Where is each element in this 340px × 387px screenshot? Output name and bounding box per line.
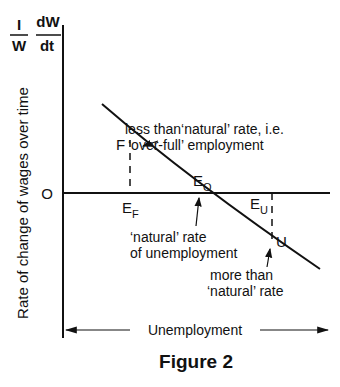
- ef-label-main: E: [122, 199, 132, 216]
- ef-label-sub: F: [132, 208, 139, 220]
- eu-label-sub: U: [260, 204, 268, 216]
- eo-label-main: E: [193, 172, 203, 189]
- eo-label-sub: O: [203, 181, 212, 193]
- y-axis-label: Rate of change of wages over time: [14, 87, 31, 319]
- symbol-numerator-2: dW: [36, 13, 60, 30]
- phillips-curve-diagram: I W dW dt Rate of change of wages over t…: [0, 0, 340, 387]
- point-u-label: U: [276, 233, 287, 250]
- arrow-more-than: [267, 249, 270, 267]
- annotation-over-full-line1: less than‘natural’ rate, i.e.: [125, 121, 284, 137]
- arrow-natural-rate: [196, 198, 199, 226]
- ef-label: E F: [122, 199, 139, 220]
- eu-label: E U: [250, 195, 268, 216]
- eo-label: E O: [193, 172, 212, 193]
- annotation-more-line2: ‘natural’ rate: [207, 283, 284, 299]
- symbol-denominator-1: W: [12, 37, 27, 54]
- point-f-label: F: [116, 136, 125, 153]
- annotation-natural-line1: ‘natural’ rate: [130, 229, 207, 245]
- symbol-numerator-1: I: [17, 16, 21, 33]
- annotation-over-full-line2: ‘over-full’ employment: [128, 137, 264, 153]
- origin-label: O: [41, 185, 53, 202]
- eu-label-main: E: [250, 195, 260, 212]
- annotation-more-line1: more than: [210, 267, 273, 283]
- x-axis-label: Unemployment: [148, 322, 242, 338]
- y-axis-symbol: I W dW dt: [10, 13, 61, 54]
- figure-caption: Figure 2: [159, 351, 233, 372]
- annotation-natural-line2: of unemployment: [130, 245, 238, 261]
- symbol-denominator-2: dt: [40, 37, 54, 54]
